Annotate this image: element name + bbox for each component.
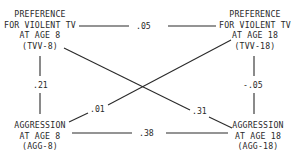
edge-agg8-tvv18-upper	[108, 40, 231, 105]
coef-tvv8-agg8: .21	[33, 80, 48, 90]
edge-agg8-tvv18-lower	[69, 113, 88, 122]
node-tvv-8-line-4: (TVV-8)	[3, 41, 77, 52]
node-agg-18-line-2: AT AGE 18	[226, 131, 290, 142]
node-agg-8-line-3: (AGG-8)	[10, 141, 70, 152]
node-tvv-18-line-2: FOR VIOLENT TV	[217, 20, 293, 31]
node-tvv-8-line-1: PREFERENCE	[3, 9, 77, 20]
coef-tvv8-tvv18: .05	[136, 21, 151, 31]
node-tvv-18-line-1: PREFERENCE	[217, 9, 293, 20]
coef-tvv18-agg18: -.05	[243, 80, 263, 90]
node-agg-8: AGGRESSION AT AGE 8 (AGG-8)	[10, 120, 70, 152]
node-tvv-18-line-3: AT AGE 18	[217, 30, 293, 41]
node-tvv-8-line-3: AT AGE 8	[3, 30, 77, 41]
node-agg-8-line-2: AT AGE 8	[10, 131, 70, 142]
node-agg-8-line-1: AGGRESSION	[10, 120, 70, 131]
coef-agg8-tvv18: .01	[90, 104, 105, 114]
coef-tvv8-agg18: .31	[192, 106, 207, 116]
node-agg-18-line-1: AGGRESSION	[226, 120, 290, 131]
coef-agg8-agg18: .38	[139, 128, 154, 138]
edge-tvv8-agg18-upper	[64, 48, 190, 110]
node-agg-18-line-3: (AGG-18)	[226, 141, 290, 152]
node-agg-18: AGGRESSION AT AGE 18 (AGG-18)	[226, 120, 290, 152]
node-tvv-8: PREFERENCE FOR VIOLENT TV AT AGE 8 (TVV-…	[3, 9, 77, 51]
node-tvv-18-line-4: (TVV-18)	[217, 41, 293, 52]
node-tvv-18: PREFERENCE FOR VIOLENT TV AT AGE 18 (TVV…	[217, 9, 293, 51]
node-tvv-8-line-2: FOR VIOLENT TV	[3, 20, 77, 31]
